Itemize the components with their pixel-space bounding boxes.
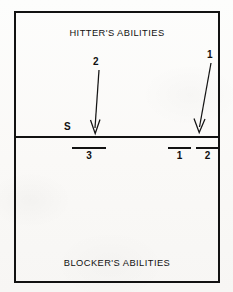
segment-1-line [168,147,191,149]
segment-2-label: 2 [196,150,219,161]
segment-3-label: 3 [72,150,106,161]
segment-1-label: 1 [168,150,191,161]
arrow-1-icon [0,0,233,292]
segment-3-line [72,147,106,149]
figure-canvas: HITTER'S ABILITIES 2 1 S 3 1 2 BLOCKER'S… [0,0,233,292]
blockers-abilities-caption: BLOCKER'S ABILITIES [14,258,220,268]
setter-position-label: S [64,121,71,132]
segment-2-line [196,147,219,149]
